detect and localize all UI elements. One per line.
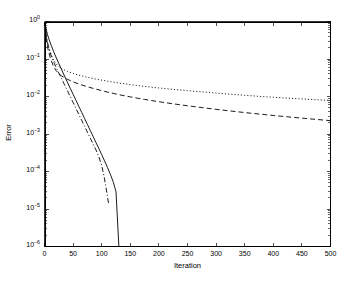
y-tick-label: 10−1 <box>8 54 40 61</box>
x-tick-label: 300 <box>201 250 231 257</box>
x-tick-label: 350 <box>230 250 260 257</box>
y-tick-label: 100 <box>8 16 40 23</box>
x-tick-label: 0 <box>30 250 60 257</box>
y-tick-label: 10−3 <box>8 129 40 136</box>
x-tick-label: 50 <box>58 250 88 257</box>
axis-lines <box>45 22 331 247</box>
x-tick-label: 200 <box>144 250 174 257</box>
x-axis-label: Iteration <box>148 261 228 270</box>
y-tick-label: 10−2 <box>8 91 40 98</box>
plot-svg <box>0 0 355 290</box>
y-tick-label: 10−5 <box>8 204 40 211</box>
x-tick-label: 450 <box>287 250 317 257</box>
x-tick-label: 250 <box>173 250 203 257</box>
x-tick-label: 500 <box>316 250 346 257</box>
series-dotted-curve <box>45 22 331 101</box>
data-series-layer <box>45 22 331 247</box>
axis-ticks <box>45 22 331 247</box>
y-axis-label: Error <box>4 109 13 157</box>
series-dashed-curve <box>45 22 331 121</box>
y-tick-label: 10−6 <box>8 241 40 248</box>
figure-canvas: 050100150200250300350400450500 10010−110… <box>0 0 355 290</box>
y-tick-label: 10−4 <box>8 166 40 173</box>
x-tick-label: 400 <box>258 250 288 257</box>
series-solid-curve <box>45 22 119 247</box>
series-dash-dot-curve <box>45 22 109 204</box>
x-tick-label: 150 <box>115 250 145 257</box>
x-tick-label: 100 <box>87 250 117 257</box>
